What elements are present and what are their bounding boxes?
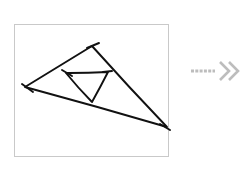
transformation-arrow — [191, 62, 238, 80]
overshoot-right — [103, 71, 112, 72]
arrow-double-chevron-icon — [220, 62, 238, 80]
sketch-canvas — [0, 0, 251, 170]
screenshot-root — [0, 0, 251, 170]
chevron-1 — [220, 62, 229, 80]
